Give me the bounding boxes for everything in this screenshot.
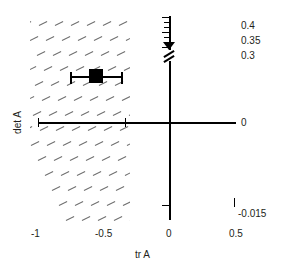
hatch-dash	[91, 201, 100, 206]
hatch-dash	[90, 96, 99, 101]
hatch-dash	[55, 21, 64, 26]
hatch-dash	[30, 126, 32, 131]
x-tick-label-neg0p5: -0.5	[95, 228, 112, 239]
hatch-dash	[85, 51, 94, 56]
hatch-dash	[127, 141, 130, 146]
y-axis-tick-minor-2	[164, 27, 170, 28]
y-axis-tick-0p4	[162, 17, 170, 18]
hatch-dash	[122, 96, 130, 101]
hatch-dash	[46, 36, 55, 41]
hatch-dash	[39, 21, 48, 26]
hatch-dash	[52, 186, 61, 191]
hatch-dash	[82, 216, 91, 221]
data-point-marker	[89, 69, 103, 83]
hatch-dash	[87, 21, 96, 26]
error-bar-cap-left	[70, 72, 72, 84]
hatch-dash	[106, 96, 115, 101]
hatch-dash	[61, 171, 70, 176]
hatch-dash	[94, 36, 103, 41]
x-tick-label-neg1: -1	[31, 228, 40, 239]
hatch-dash	[118, 156, 127, 161]
hatch-dash	[79, 141, 88, 146]
hatch-dash	[113, 111, 122, 116]
hatch-dash	[58, 96, 67, 101]
hatch-dash	[49, 111, 58, 116]
hatch-dash	[37, 51, 46, 56]
y-axis-tick-0p35	[162, 32, 170, 33]
y-axis-tick-neg0p015	[162, 205, 170, 206]
hatch-dash	[35, 81, 44, 86]
hatch-dash	[68, 186, 77, 191]
hatch-dash	[70, 156, 79, 161]
hatch-dash	[102, 156, 111, 161]
hatch-dash	[76, 66, 85, 71]
hatch-dash	[33, 111, 42, 116]
hatch-dash	[62, 36, 71, 41]
x-axis-tick-neg1	[38, 118, 39, 127]
hatch-dash	[30, 21, 31, 26]
hatch-dash	[111, 141, 120, 146]
x-axis-tick-neg0p5	[125, 118, 126, 127]
hatch-dash	[117, 51, 126, 56]
figure-panel: 0.4 0.35 0.3 0 -0.015 -1 -0.5 0 0.5 tr A…	[0, 0, 285, 274]
hatch-dash	[30, 96, 34, 101]
hatch-dash	[30, 36, 38, 41]
hatch-dash	[66, 216, 75, 221]
hatch-dash	[93, 171, 102, 176]
hatch-dash	[114, 216, 123, 221]
y-axis-tick-minor-1	[164, 22, 170, 23]
x-axis-line	[38, 122, 236, 124]
hatch-dash	[31, 141, 40, 146]
hatch-dash	[40, 126, 49, 131]
x-tick-label-zero: 0	[166, 228, 172, 239]
hatch-dash	[75, 201, 84, 206]
hatch-dash	[63, 141, 72, 146]
hatch-dash	[84, 186, 93, 191]
y-tick-label-0: 0	[241, 117, 247, 128]
hatch-dash	[74, 96, 83, 101]
error-bar-cap-right	[121, 72, 123, 84]
y-tick-label-0p35: 0.35	[241, 35, 260, 46]
hatch-dash	[104, 126, 113, 131]
hatch-dash	[42, 96, 51, 101]
hatch-dash	[53, 51, 62, 56]
hatch-dash	[47, 141, 56, 146]
hatch-dash	[101, 51, 110, 56]
hatch-dash	[97, 111, 106, 116]
hatch-dash	[30, 66, 36, 71]
y-axis-tick-minor-3	[164, 37, 170, 38]
hatch-dash	[109, 171, 118, 176]
hatch-dash	[123, 201, 130, 206]
y-tick-label-0p4: 0.4	[241, 20, 255, 31]
y-tick-label-neg0p015: -0.015	[238, 208, 266, 219]
x-tick-label-0p5: 0.5	[229, 228, 243, 239]
hatch-dash	[103, 21, 112, 26]
hatch-dash	[126, 36, 130, 41]
y-tick-label-0p3: 0.3	[241, 50, 255, 61]
hatch-dash	[107, 201, 116, 206]
hatch-dash	[65, 111, 74, 116]
stability-hatched-region	[30, 14, 130, 222]
hatch-dash	[95, 141, 104, 146]
hatch-dash	[110, 36, 119, 41]
hatch-dash	[88, 126, 97, 131]
hatch-dash	[59, 201, 68, 206]
hatch-dash	[129, 111, 130, 116]
hatch-dash	[108, 66, 117, 71]
y-axis-title: det A	[12, 93, 23, 153]
hatch-dash	[71, 21, 80, 26]
hatch-dash	[51, 81, 60, 86]
hatch-dash	[125, 171, 130, 176]
hatch-dash	[72, 126, 81, 131]
hatch-dash	[98, 216, 107, 221]
hatch-dash	[56, 126, 65, 131]
hatch-dash	[69, 51, 78, 56]
hatch-dash	[124, 66, 130, 71]
hatch-dash	[77, 171, 86, 176]
hatch-dash	[78, 36, 87, 41]
minor-tick-mark	[234, 198, 235, 207]
hatch-dash	[38, 156, 47, 161]
hatch-dash	[81, 111, 90, 116]
hatch-dash	[45, 171, 54, 176]
hatch-dash	[54, 156, 63, 161]
